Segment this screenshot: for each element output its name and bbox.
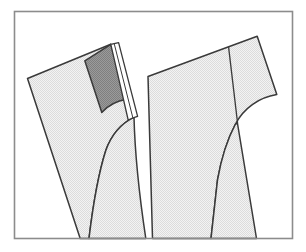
figure-root: Garment pattern pieces technical line dr… <box>0 0 306 252</box>
technical-drawing-canvas <box>0 0 306 252</box>
